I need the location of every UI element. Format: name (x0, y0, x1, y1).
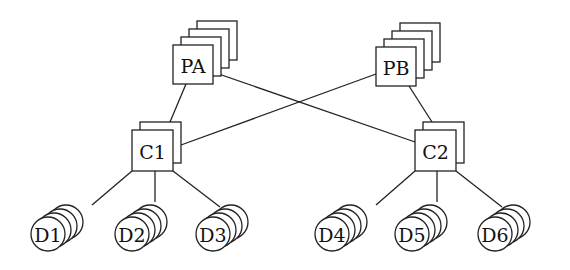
controller-c1: C1 (132, 122, 181, 171)
edge-pb-c2 (409, 86, 432, 122)
controller-c2: C2 (415, 122, 464, 171)
disk-label: D6 (481, 224, 508, 246)
disk-d4: D4 (315, 205, 367, 251)
disk-label: D3 (199, 224, 226, 246)
processor-label: PA (181, 55, 206, 77)
edge-pa-c1 (170, 84, 186, 122)
edge-c1-d1 (92, 171, 132, 205)
processor-label: PB (383, 57, 410, 79)
disk-d2: D2 (115, 205, 167, 251)
disk-d6: D6 (478, 205, 530, 251)
edge-c2-d6 (456, 171, 502, 207)
edge-c2-d4 (376, 171, 415, 205)
controllers-layer: C1C2 (132, 122, 464, 171)
controller-label: C1 (139, 141, 166, 163)
processor-pb: PB (376, 23, 440, 86)
controller-label: C2 (422, 141, 449, 163)
topology-diagram: C1C2 PAPB D1D2D3D4D5D6 (0, 0, 570, 270)
disk-label: D2 (118, 224, 145, 246)
disk-label: D1 (34, 224, 61, 246)
disk-label: D5 (398, 224, 425, 246)
disk-d1: D1 (31, 205, 83, 251)
edge-c1-d3 (173, 171, 220, 207)
disks-layer: D1D2D3D4D5D6 (31, 205, 530, 251)
processor-pa: PA (173, 21, 237, 84)
disk-label: D4 (318, 224, 345, 246)
disk-d3: D3 (196, 205, 248, 251)
processors-layer: PAPB (173, 21, 440, 86)
disk-d5: D5 (395, 205, 447, 251)
edge-pb-c1 (181, 74, 376, 145)
